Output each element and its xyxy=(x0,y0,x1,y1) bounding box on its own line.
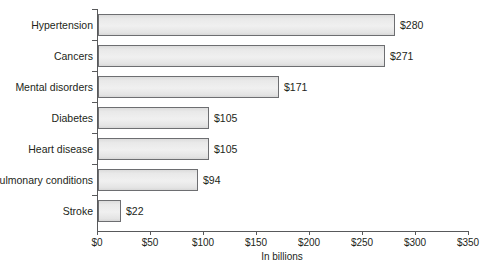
bar-row: Stroke$22 xyxy=(0,200,493,222)
bar xyxy=(98,107,209,129)
category-tick xyxy=(92,195,97,196)
category-label: Pulmonary conditions xyxy=(0,169,93,191)
value-axis-tick-label: $150 xyxy=(245,236,267,249)
category-label: Hypertension xyxy=(31,14,93,36)
bar-value-label: $271 xyxy=(390,45,413,67)
bar-value-label: $105 xyxy=(214,138,237,160)
bar-value-label: $105 xyxy=(214,107,237,129)
bar-chart: Hypertension$280Cancers$271Mental disord… xyxy=(0,0,493,273)
value-axis-tick-label: $300 xyxy=(404,236,426,249)
bar-row: Cancers$271 xyxy=(0,45,493,67)
category-tick xyxy=(92,164,97,165)
value-axis-tick xyxy=(362,231,363,235)
category-tick xyxy=(92,40,97,41)
bar-value-label: $22 xyxy=(126,200,144,222)
bar-rows: Hypertension$280Cancers$271Mental disord… xyxy=(0,0,493,231)
value-axis-tick xyxy=(203,231,204,235)
category-label: Cancers xyxy=(54,45,93,67)
bar xyxy=(98,45,385,67)
value-axis-title-text: In billions xyxy=(261,251,303,262)
bar-value-label: $171 xyxy=(284,76,307,98)
category-tick xyxy=(92,71,97,72)
category-label: Mental disorders xyxy=(15,76,93,98)
category-tick xyxy=(92,133,97,134)
value-axis-tick xyxy=(468,231,469,235)
category-tick xyxy=(92,102,97,103)
value-axis-tick xyxy=(415,231,416,235)
bar-value-label: $94 xyxy=(203,169,221,191)
value-axis-tick-label: $100 xyxy=(192,236,214,249)
value-axis-tick-label: $200 xyxy=(298,236,320,249)
bar xyxy=(98,138,209,160)
value-axis-tick-label: $350 xyxy=(457,236,479,249)
value-axis-tick xyxy=(309,231,310,235)
bar xyxy=(98,76,279,98)
value-axis-tick xyxy=(256,231,257,235)
value-axis-tick-label: $0 xyxy=(91,236,102,249)
bar xyxy=(98,169,198,191)
bar-row: Pulmonary conditions$94 xyxy=(0,169,493,191)
value-axis-line xyxy=(97,231,468,232)
bar-row: Diabetes$105 xyxy=(0,107,493,129)
value-axis-tick-label: $50 xyxy=(142,236,159,249)
bar xyxy=(98,14,395,36)
bar-row: Mental disorders$171 xyxy=(0,76,493,98)
bar-value-label: $280 xyxy=(400,14,423,36)
value-axis-tick xyxy=(97,231,98,235)
bar-row: Heart disease$105 xyxy=(0,138,493,160)
bar xyxy=(98,200,121,222)
value-axis-tick xyxy=(150,231,151,235)
category-label: Diabetes xyxy=(52,107,93,129)
category-label: Stroke xyxy=(63,200,93,222)
category-label: Heart disease xyxy=(28,138,93,160)
value-axis-tick-label: $250 xyxy=(351,236,373,249)
category-tick xyxy=(92,9,97,10)
bar-row: Hypertension$280 xyxy=(0,14,493,36)
